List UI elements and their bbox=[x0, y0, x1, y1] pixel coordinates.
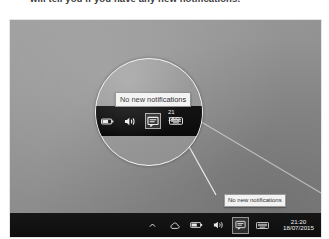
battery-icon[interactable] bbox=[100, 114, 114, 128]
screen-photograph: 21:20 18/07/2015 No new notifications bbox=[10, 20, 321, 237]
magnified-clock-time: 21 bbox=[168, 109, 184, 116]
magnified-clock-date: 18/0 bbox=[168, 116, 184, 123]
onedrive-icon[interactable] bbox=[167, 218, 182, 233]
caption-text: will tell you if you have any new notifi… bbox=[30, 0, 240, 4]
volume-icon[interactable] bbox=[123, 114, 137, 128]
magnified-taskbar bbox=[95, 106, 203, 136]
touch-keyboard-icon[interactable] bbox=[255, 218, 270, 233]
clock-date: 18/07/2015 bbox=[283, 225, 314, 232]
action-center-icon[interactable] bbox=[233, 218, 248, 233]
taskbar-clock[interactable]: 21:20 18/07/2015 bbox=[283, 219, 314, 232]
magnified-clock[interactable]: 21 18/0 bbox=[168, 109, 184, 123]
show-hidden-icons-icon[interactable] bbox=[145, 218, 160, 233]
magnified-notification-tooltip: No new notifications bbox=[115, 92, 191, 107]
volume-icon[interactable] bbox=[211, 218, 226, 233]
magnifier-content: 21 18/0 No new notifications bbox=[96, 59, 202, 165]
notification-tooltip: No new notifications bbox=[224, 194, 286, 207]
notification-area: 21:20 18/07/2015 bbox=[145, 213, 317, 237]
battery-icon[interactable] bbox=[189, 218, 204, 233]
action-center-icon[interactable] bbox=[146, 114, 160, 128]
windows-taskbar: 21:20 18/07/2015 bbox=[10, 213, 321, 237]
magnifier-lens: 21 18/0 No new notifications bbox=[95, 58, 203, 166]
caption-strip: will tell you if you have any new notifi… bbox=[0, 0, 329, 14]
